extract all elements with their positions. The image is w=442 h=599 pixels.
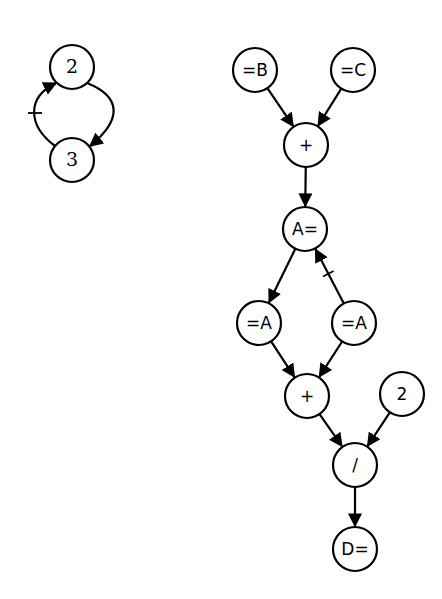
node-plus2: + (285, 374, 329, 418)
node-label: + (299, 135, 313, 155)
edge-plus2-to-div (320, 414, 342, 446)
edge-eqC-to-plus1 (318, 89, 341, 126)
edge-eqA2-to-Aeq (316, 249, 344, 303)
node-label: A= (292, 219, 318, 239)
node-label: 2 (66, 55, 78, 77)
node-eqA1: =A (237, 301, 281, 345)
node-Deq: D= (333, 527, 377, 571)
diagram-canvas: =B=C+A==A=A+2/D=23 (0, 0, 442, 599)
node-eqA2: =A (332, 301, 376, 345)
node-label: =A (246, 313, 272, 333)
edge-n3-to-n2 (34, 83, 56, 146)
node-label: 3 (66, 148, 78, 170)
node-plus1: + (284, 123, 328, 167)
node-label: =A (341, 313, 367, 333)
node-Aeq: A= (283, 207, 327, 251)
nodes-layer: =B=C+A==A=A+2/D=23 (50, 45, 424, 571)
edge-eqA2-to-plus2 (319, 341, 342, 376)
node-label: + (300, 386, 314, 406)
edge-two-to-div (368, 412, 390, 445)
node-eqB: =B (233, 48, 277, 92)
node-n2: 2 (50, 45, 94, 89)
node-div: / (333, 443, 377, 487)
edge-n2-to-n3 (87, 83, 114, 146)
node-two: 2 (380, 372, 424, 416)
node-label: =C (340, 60, 366, 80)
node-label: =B (242, 60, 268, 80)
node-n3: 3 (50, 138, 94, 182)
edge-eqB-to-plus1 (267, 88, 293, 126)
node-label: D= (341, 539, 368, 559)
edge-Aeq-to-eqA1 (269, 249, 295, 303)
node-eqC: =C (331, 48, 375, 92)
edge-eqA1-to-plus2 (271, 341, 294, 376)
node-label: / (352, 455, 358, 475)
node-label: 2 (397, 384, 408, 404)
